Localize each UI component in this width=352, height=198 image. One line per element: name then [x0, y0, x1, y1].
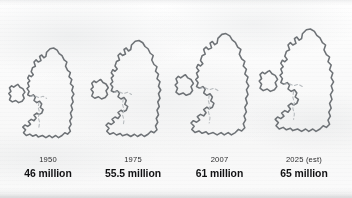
population-label-1950: 46 million [6, 169, 90, 179]
infographic-canvas: 1950 46 million 1975 55.5 million [0, 0, 352, 198]
uk-map-1950 [6, 44, 90, 150]
uk-map-outline-icon [172, 26, 267, 152]
year-label-2007: 2007 [172, 156, 267, 164]
population-panel-1975: 1975 55.5 million [88, 0, 178, 198]
year-label-2025: 2025 (est) [256, 156, 352, 164]
population-label-2025: 65 million [256, 169, 352, 179]
year-label-1975: 1975 [88, 156, 178, 164]
population-panel-1950: 1950 46 million [6, 0, 90, 198]
population-label-2007: 61 million [172, 169, 267, 179]
caption-2025: 2025 (est) 65 million [256, 156, 352, 179]
year-label-1950: 1950 [6, 156, 90, 164]
uk-map-1975 [88, 34, 178, 152]
population-panel-2007: 2007 61 million [172, 0, 267, 198]
uk-map-2007 [172, 26, 267, 152]
uk-map-outline-icon [88, 34, 178, 152]
caption-1950: 1950 46 million [6, 156, 90, 179]
caption-2007: 2007 61 million [172, 156, 267, 179]
population-label-1975: 55.5 million [88, 169, 178, 179]
uk-map-2025 [256, 18, 352, 152]
uk-map-outline-icon [256, 18, 352, 152]
population-panel-2025: 2025 (est) 65 million [256, 0, 352, 198]
caption-1975: 1975 55.5 million [88, 156, 178, 179]
uk-map-outline-icon [6, 44, 90, 150]
